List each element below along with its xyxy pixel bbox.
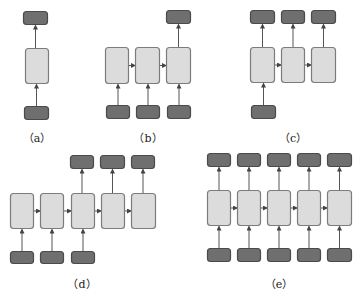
panel-caption-e: （e） [265,275,294,291]
hidden-state-box [132,194,156,229]
hidden-state-box [102,194,125,229]
hidden-state-box [312,48,336,83]
hidden-state-box [328,191,352,226]
input-box [268,249,291,262]
output-box [238,154,261,167]
hidden-state-box [298,191,321,226]
input-box [11,252,34,264]
hidden-state-box [167,48,191,84]
input-box [41,252,64,264]
hidden-state-box [268,191,291,226]
output-box [328,154,352,167]
hidden-state-box [282,48,305,83]
hidden-state-box [41,194,64,229]
hidden-state-box [26,49,49,84]
hidden-state-box [72,194,95,229]
output-box [282,11,305,24]
input-box [72,252,95,264]
panel-caption-a: （a） [23,129,52,145]
output-box [24,12,48,25]
output-box [251,11,275,24]
hidden-state-box [251,48,275,83]
output-box [312,11,336,24]
output-box [167,11,191,24]
input-box [137,106,160,119]
rnn-architecture-diagram [0,0,361,295]
input-box [238,249,261,262]
hidden-state-box [106,48,129,84]
input-box [298,249,321,262]
output-box [71,156,94,169]
hidden-state-box [208,191,231,226]
panel-caption-d: （d） [67,275,96,291]
output-box [208,154,231,167]
input-box [252,106,276,119]
hidden-state-box [238,191,261,226]
panel-caption-c: （c） [279,129,307,145]
hidden-state-box [136,48,160,84]
input-box [107,106,130,119]
input-box [25,107,49,120]
output-box [298,154,321,167]
input-box [168,106,191,119]
output-box [132,156,155,169]
hidden-state-box [11,194,34,229]
input-box [208,249,231,262]
input-box [328,249,352,262]
output-box [268,154,291,167]
output-box [101,156,125,169]
panel-caption-b: （b） [133,129,162,145]
